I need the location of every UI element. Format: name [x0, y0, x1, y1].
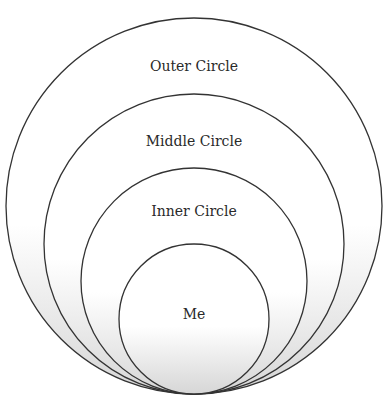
me-circle-label: Me [183, 306, 206, 322]
circles-diagram: Outer Circle Middle Circle Inner Circle … [0, 0, 389, 400]
outer-circle-label: Outer Circle [150, 58, 238, 74]
inner-circle-label: Inner Circle [151, 203, 236, 219]
middle-circle-label: Middle Circle [146, 133, 242, 149]
